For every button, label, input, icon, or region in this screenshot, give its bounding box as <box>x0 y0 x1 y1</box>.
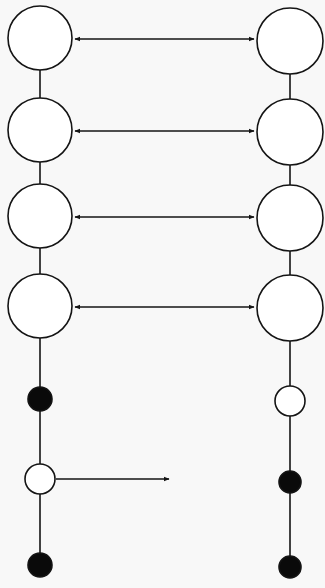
left-node-l7-small-filled <box>28 553 52 577</box>
right-node-r2-large-open <box>257 99 323 165</box>
right-node-r7-small-filled <box>279 556 301 578</box>
left-node-l1-large-open <box>8 6 72 70</box>
left-node-l4-large-open <box>8 274 72 338</box>
right-node-r3-large-open <box>257 185 323 251</box>
connector-arrows <box>56 39 254 479</box>
left-node-l6-small-open <box>25 464 55 494</box>
chain-spines <box>40 38 290 567</box>
right-node-r5-small-open <box>275 386 305 416</box>
right-node-r1-large-open <box>257 8 323 74</box>
chain-diagram <box>0 0 325 588</box>
chain-nodes <box>8 6 323 578</box>
left-node-l5-small-filled <box>28 387 52 411</box>
right-node-r6-small-filled <box>279 471 301 493</box>
right-node-r4-large-open <box>257 275 323 341</box>
left-node-l3-large-open <box>8 184 72 248</box>
left-node-l2-large-open <box>8 98 72 162</box>
